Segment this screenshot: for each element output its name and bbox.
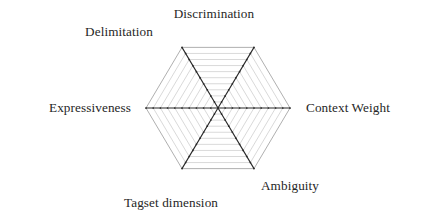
radar-tick-delimitation-5	[199, 77, 201, 79]
radar-tick-discrimination-6	[239, 71, 241, 73]
radar-tick-expressiveness-7	[167, 107, 169, 109]
radar-tick-expressiveness-2	[203, 107, 205, 109]
radar-tick-discrimination-9	[250, 53, 252, 55]
radar-tick-expressiveness-9	[152, 107, 154, 109]
radar-tick-tagset-dimension-4	[203, 131, 205, 133]
radar-tick-tagset-dimension-6	[196, 144, 198, 146]
radar-tick-expressiveness-10	[145, 107, 147, 109]
radar-tick-ambiguity-1	[221, 113, 223, 115]
radar-tick-expressiveness-8	[160, 107, 162, 109]
radar-tick-context-weight-2	[232, 107, 234, 109]
radar-tick-tagset-dimension-10	[181, 168, 183, 170]
radar-tick-expressiveness-6	[174, 107, 176, 109]
radar-tick-tagset-dimension-5	[199, 137, 201, 139]
radar-tick-context-weight-10	[289, 107, 291, 109]
radar-tick-context-weight-8	[275, 107, 277, 109]
axis-label-ambiguity: Ambiguity	[261, 178, 319, 193]
radar-tick-ambiguity-6	[239, 144, 241, 146]
radar-tick-delimitation-3	[206, 89, 208, 91]
radar-tick-context-weight-5	[253, 107, 255, 109]
radar-tick-ambiguity-2	[224, 119, 226, 121]
radar-tick-context-weight-4	[246, 107, 248, 109]
radar-tick-expressiveness-5	[181, 107, 183, 109]
radar-tick-context-weight-9	[282, 107, 284, 109]
radar-tick-ambiguity-7	[242, 150, 244, 152]
radar-tick-discrimination-4	[232, 83, 234, 85]
radar-tick-delimitation-8	[188, 59, 190, 61]
axis-label-tagset-dimension: Tagset dimension	[124, 195, 218, 210]
radar-tick-discrimination-3	[228, 89, 230, 91]
radar-tick-delimitation-6	[196, 71, 198, 73]
radar-chart-canvas: Discrimination Context Weight Ambiguity …	[0, 0, 424, 217]
radar-tick-tagset-dimension-7	[192, 150, 194, 152]
radar-tick-context-weight-1	[224, 107, 226, 109]
radar-tick-discrimination-7	[242, 65, 244, 67]
radar-tick-expressiveness-1	[210, 107, 212, 109]
radar-tick-tagset-dimension-1	[214, 113, 216, 115]
radar-tick-context-weight-3	[239, 107, 241, 109]
radar-tick-context-weight-6	[260, 107, 262, 109]
radar-tick-tagset-dimension-9	[185, 162, 187, 164]
radar-tick-ambiguity-3	[228, 125, 230, 127]
radar-tick-tagset-dimension-2	[210, 119, 212, 121]
radar-tick-delimitation-4	[203, 83, 205, 85]
radar-tick-context-weight-7	[268, 107, 270, 109]
radar-tick-delimitation-1	[214, 101, 216, 103]
axis-label-context-weight: Context Weight	[306, 100, 390, 115]
radar-tick-discrimination-5	[235, 77, 237, 79]
axis-label-delimitation: Delimitation	[85, 24, 153, 39]
radar-tick-delimitation-2	[210, 95, 212, 97]
radar-tick-ambiguity-9	[250, 162, 252, 164]
radar-tick-discrimination-2	[224, 95, 226, 97]
axis-label-discrimination: Discrimination	[174, 6, 255, 21]
radar-tick-discrimination-1	[221, 101, 223, 103]
radar-tick-ambiguity-10	[253, 168, 255, 170]
radar-tick-discrimination-8	[246, 59, 248, 61]
radar-tick-expressiveness-3	[196, 107, 198, 109]
radar-tick-expressiveness-4	[188, 107, 190, 109]
radar-chart-figure: Discrimination Context Weight Ambiguity …	[0, 0, 424, 217]
radar-tick-discrimination-10	[253, 47, 255, 49]
radar-tick-ambiguity-8	[246, 156, 248, 158]
radar-tick-ambiguity-4	[232, 131, 234, 133]
radar-tick-delimitation-9	[185, 53, 187, 55]
axis-label-expressiveness: Expressiveness	[49, 100, 131, 115]
radar-tick-tagset-dimension-8	[188, 156, 190, 158]
radar-tick-delimitation-10	[181, 47, 183, 49]
radar-tick-ambiguity-5	[235, 137, 237, 139]
radar-tick-delimitation-7	[192, 65, 194, 67]
radar-tick-tagset-dimension-3	[206, 125, 208, 127]
